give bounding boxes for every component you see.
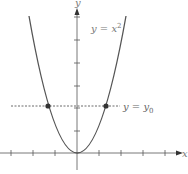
y-axis [74, 10, 80, 170]
parabola-curve [29, 16, 126, 153]
intersection-point-left [45, 103, 50, 108]
y-axis-label: y [74, 0, 81, 8]
intersection-point-right [103, 103, 108, 108]
curve-label: y = x2 [90, 22, 122, 34]
x-axis-label: x [182, 148, 188, 159]
parabola-diagram: y x y = x2 y = y0 [0, 0, 188, 174]
y-axis-arrow-icon [75, 8, 80, 15]
line-label: y = y0 [122, 101, 154, 115]
x-axis [0, 150, 181, 156]
